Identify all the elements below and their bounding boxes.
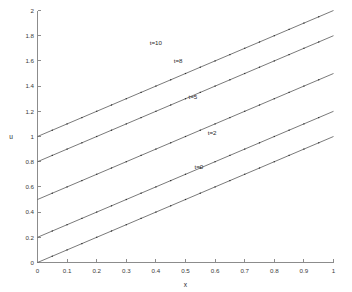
- x-tick-label: 0: [36, 267, 40, 274]
- series-marker: [155, 186, 156, 187]
- series-marker: [244, 149, 245, 150]
- y-tick-label: 0.8: [25, 158, 34, 165]
- series-marker: [170, 104, 171, 105]
- series-marker: [52, 230, 53, 231]
- y-tick-label: 1: [31, 133, 35, 140]
- y-tick-label: 1.2: [25, 108, 34, 115]
- series-marker: [52, 130, 53, 131]
- series-marker: [289, 54, 290, 55]
- x-tick-label: 0.5: [181, 267, 190, 274]
- series-marker: [259, 67, 260, 68]
- series-marker: [81, 142, 82, 143]
- series-marker: [52, 155, 53, 156]
- series-label-t5: t=5: [189, 93, 198, 100]
- series-annotations: t=0t=2t=5t=8t=10: [150, 39, 217, 171]
- x-tick-label: 0.8: [270, 267, 279, 274]
- series-marker: [111, 230, 112, 231]
- y-axis-title: u: [9, 133, 13, 140]
- series-marker: [259, 167, 260, 168]
- series-marker: [229, 54, 230, 55]
- series-marker: [259, 142, 260, 143]
- series-marker: [318, 16, 319, 17]
- series-marker: [96, 237, 97, 238]
- x-axis-title: x: [184, 281, 188, 288]
- x-tick-label: 0.9: [300, 267, 309, 274]
- series-marker: [96, 212, 97, 213]
- series-marker: [289, 29, 290, 30]
- y-tick-label: 0: [31, 259, 35, 266]
- series-label-t2: t=2: [208, 129, 217, 136]
- series-marker: [289, 155, 290, 156]
- series-marker: [96, 174, 97, 175]
- series-marker: [200, 193, 201, 194]
- series-marker: [67, 186, 68, 187]
- line-chart: 00.10.20.30.40.50.60.70.80.9100.20.40.60…: [0, 0, 352, 292]
- series-marker: [67, 123, 68, 124]
- figure-canvas: 00.10.20.30.40.50.60.70.80.9100.20.40.60…: [0, 0, 352, 292]
- series-marker: [81, 243, 82, 244]
- series-marker: [52, 256, 53, 257]
- series-marker: [96, 111, 97, 112]
- series-marker: [289, 92, 290, 93]
- series-marker: [303, 123, 304, 124]
- series-marker: [67, 224, 68, 225]
- series-marker: [274, 60, 275, 61]
- series-marker: [126, 224, 127, 225]
- series-marker: [229, 155, 230, 156]
- y-tick-label: 1.4: [25, 82, 34, 89]
- series-marker: [259, 104, 260, 105]
- series-marker: [126, 161, 127, 162]
- series-marker: [185, 199, 186, 200]
- y-tick-label: 0.6: [25, 183, 34, 190]
- series-marker: [111, 104, 112, 105]
- series-marker: [81, 218, 82, 219]
- axis-titles: xu: [9, 133, 188, 288]
- series-marker: [141, 193, 142, 194]
- series-marker: [289, 130, 290, 131]
- series-marker: [229, 79, 230, 80]
- y-tick-label: 2: [31, 7, 35, 14]
- series-marker: [81, 180, 82, 181]
- series-marker: [215, 123, 216, 124]
- series-marker: [170, 205, 171, 206]
- series-marker: [170, 142, 171, 143]
- y-tick-label: 1.8: [25, 32, 34, 39]
- series-marker: [274, 136, 275, 137]
- series-marker: [170, 180, 171, 181]
- x-tick-label: 0.4: [152, 267, 161, 274]
- series-marker: [52, 193, 53, 194]
- series-marker: [111, 130, 112, 131]
- x-tick-label: 0.3: [122, 267, 131, 274]
- series-marker: [111, 205, 112, 206]
- x-tick-label: 0.1: [63, 267, 72, 274]
- series-marker: [96, 136, 97, 137]
- series-marker: [215, 186, 216, 187]
- axes: 00.10.20.30.40.50.60.70.80.9100.20.40.60…: [25, 7, 335, 274]
- series-marker: [67, 249, 68, 250]
- series-marker: [155, 212, 156, 213]
- series-marker: [274, 98, 275, 99]
- series-marker: [274, 35, 275, 36]
- series-marker: [185, 98, 186, 99]
- series-marker: [303, 149, 304, 150]
- series-marker: [155, 149, 156, 150]
- series-marker: [303, 23, 304, 24]
- series-marker: [303, 48, 304, 49]
- x-tick-label: 0.7: [240, 267, 249, 274]
- series-marker: [185, 174, 186, 175]
- series-marker: [244, 174, 245, 175]
- series-marker: [200, 67, 201, 68]
- series-label-t10: t=10: [150, 39, 163, 46]
- series-marker: [155, 111, 156, 112]
- series-marker: [244, 73, 245, 74]
- series-marker: [81, 117, 82, 118]
- y-tick-label: 0.2: [25, 234, 34, 241]
- series-marker: [215, 60, 216, 61]
- series-marker: [303, 86, 304, 87]
- series-marker: [126, 199, 127, 200]
- series-marker: [126, 123, 127, 124]
- series-marker: [170, 79, 171, 80]
- series-marker: [126, 98, 127, 99]
- series-label-t8: t=8: [174, 57, 183, 64]
- series-marker: [318, 142, 319, 143]
